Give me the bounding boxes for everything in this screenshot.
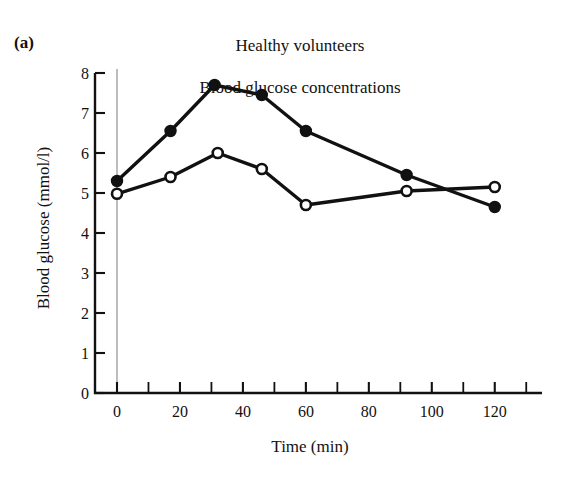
y-tick-label: 7 bbox=[81, 105, 89, 122]
x-tick-label: 60 bbox=[298, 403, 314, 420]
y-tick-label: 1 bbox=[81, 345, 89, 362]
figure-panel: (a) Healthy volunteers Blood glucose con… bbox=[0, 0, 562, 477]
y-tick-label: 2 bbox=[81, 305, 89, 322]
x-tick-label: 40 bbox=[235, 403, 251, 420]
x-tick-label: 120 bbox=[483, 403, 507, 420]
y-tick-label: 8 bbox=[81, 65, 89, 82]
data-point-filled-circles bbox=[165, 126, 176, 137]
x-tick-label: 80 bbox=[361, 403, 377, 420]
data-point-open-circles bbox=[402, 186, 412, 196]
data-point-filled-circles bbox=[256, 90, 267, 101]
data-point-open-circles bbox=[213, 148, 223, 158]
data-point-open-circles bbox=[301, 200, 311, 210]
line-chart-plot: 012345678020406080100120 bbox=[0, 0, 562, 477]
data-point-open-circles bbox=[257, 164, 267, 174]
axis-tick-labels: 012345678020406080100120 bbox=[81, 65, 507, 420]
axis-spines bbox=[95, 73, 542, 393]
y-tick-label: 4 bbox=[81, 225, 89, 242]
data-point-open-circles bbox=[166, 172, 176, 182]
x-tick-label: 0 bbox=[113, 403, 121, 420]
y-tick-label: 0 bbox=[81, 385, 89, 402]
y-tick-label: 3 bbox=[81, 265, 89, 282]
x-tick-label: 100 bbox=[420, 403, 444, 420]
y-tick-label: 5 bbox=[81, 185, 89, 202]
data-point-filled-circles bbox=[300, 126, 311, 137]
data-point-filled-circles bbox=[112, 176, 123, 187]
chart-axes bbox=[95, 73, 542, 393]
x-tick-label: 20 bbox=[172, 403, 188, 420]
data-point-filled-circles bbox=[401, 170, 412, 181]
data-series bbox=[112, 80, 501, 213]
data-point-open-circles bbox=[490, 182, 500, 192]
data-point-open-circles bbox=[112, 189, 122, 199]
y-tick-label: 6 bbox=[81, 145, 89, 162]
data-point-filled-circles bbox=[489, 202, 500, 213]
data-point-filled-circles bbox=[209, 80, 220, 91]
